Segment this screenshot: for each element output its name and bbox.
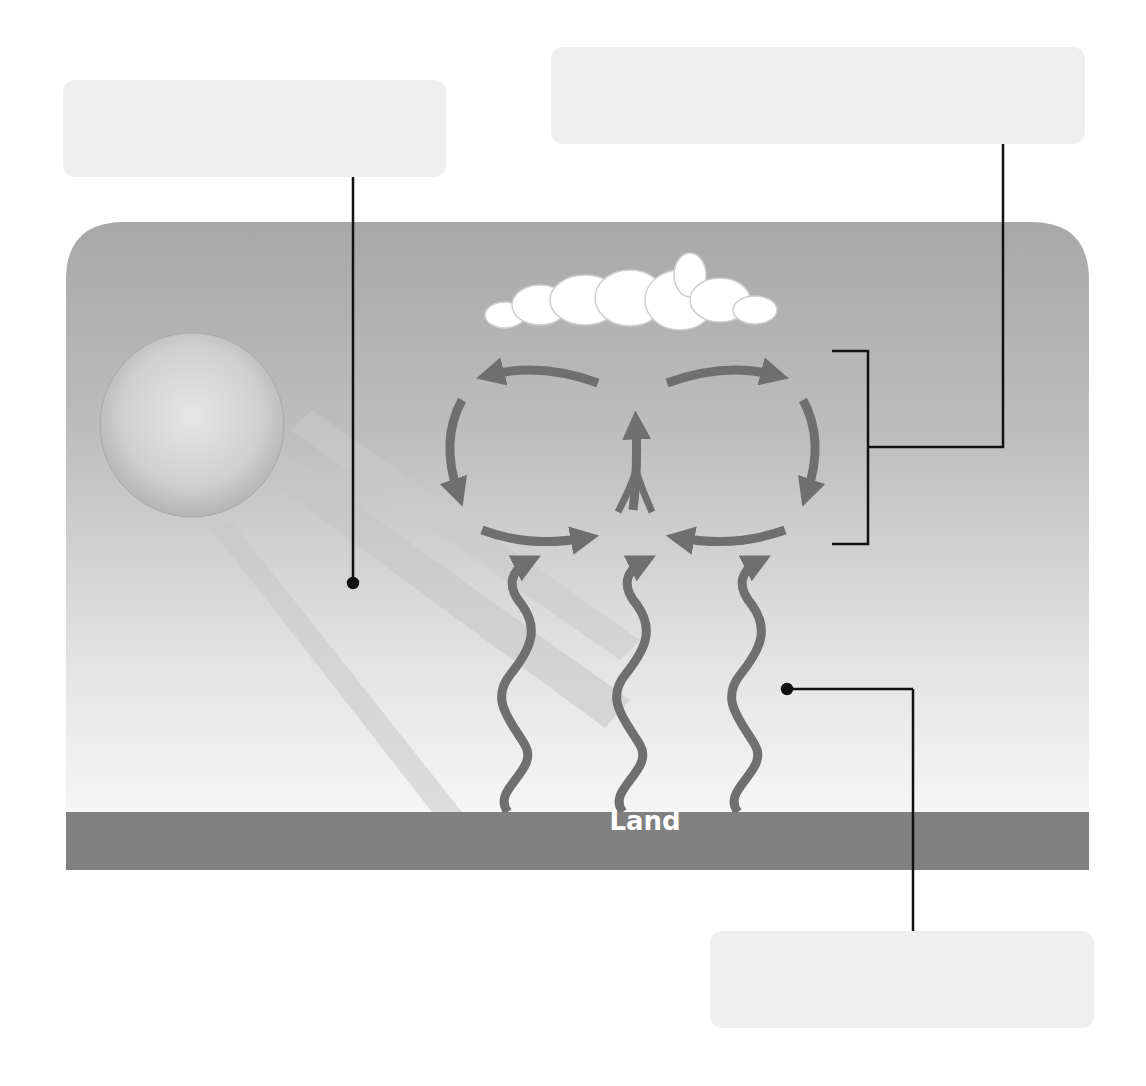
diagram-canvas [0,0,1146,1086]
sun-icon [100,333,284,517]
land-label: Land [545,806,745,836]
arrow-center-up [633,425,637,510]
